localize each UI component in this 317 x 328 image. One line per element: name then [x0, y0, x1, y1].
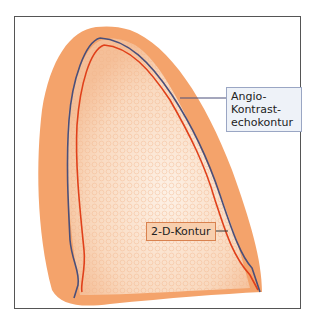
angio-contour-label: Angio-Kontrast- echokontur: [226, 87, 302, 132]
ventricle-diagram: [0, 0, 317, 328]
angio-label-line1: Angio-Kontrast-: [231, 90, 297, 116]
angio-label-line2: echokontur: [231, 116, 297, 129]
two-d-contour-label: 2-D-Kontur: [146, 222, 216, 241]
